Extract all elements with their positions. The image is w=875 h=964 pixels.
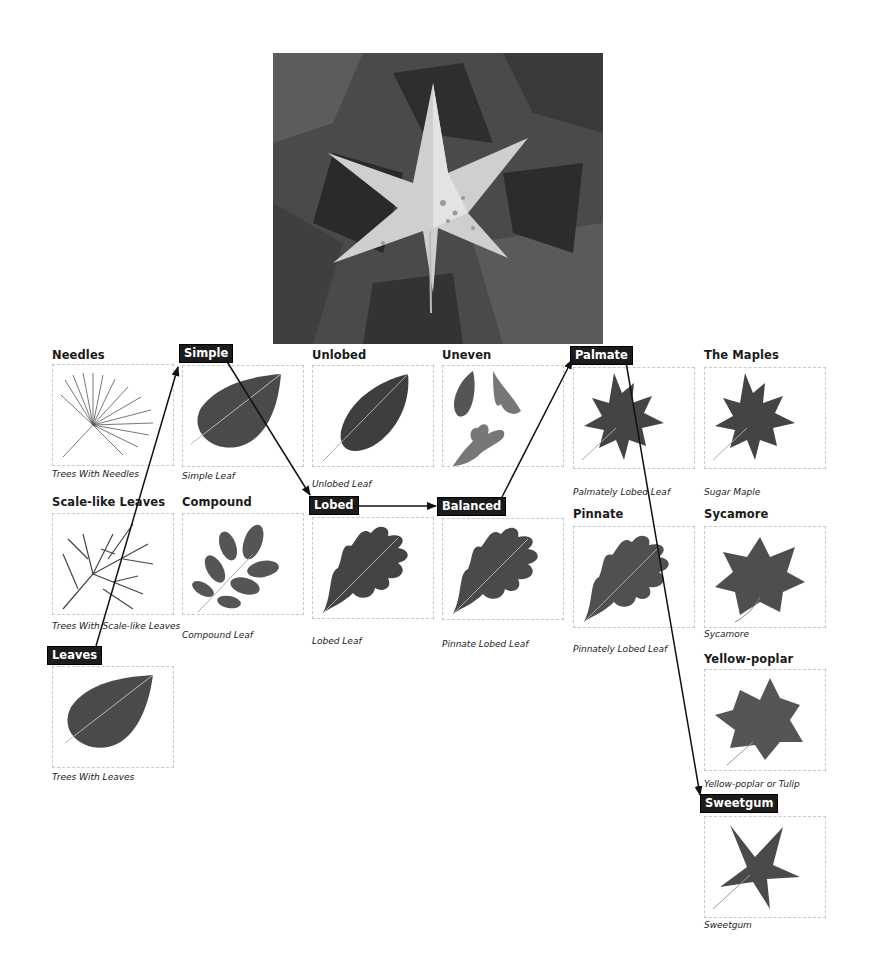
- sassafras-leaves-icon: [443, 366, 563, 466]
- tulip-leaf-icon: [705, 670, 825, 770]
- card-sycamore[interactable]: [704, 526, 826, 628]
- maple-leaf-icon: [574, 368, 694, 468]
- heading-scale-like: Scale-like Leaves: [52, 495, 165, 509]
- card-compound[interactable]: [182, 513, 304, 615]
- caption-scale-like: Trees With Scale-like Leaves: [52, 621, 182, 632]
- card-uneven[interactable]: [442, 365, 564, 467]
- caption-compound: Compound Leaf: [182, 630, 312, 641]
- heading-uneven: Uneven: [442, 348, 491, 362]
- heading-yellow-poplar: Yellow-poplar: [704, 652, 793, 666]
- caption-balanced: Pinnate Lobed Leaf: [442, 639, 572, 650]
- heading-maples: The Maples: [704, 348, 779, 362]
- badge-balanced[interactable]: Balanced: [437, 497, 506, 516]
- simple-leaf-icon: [53, 667, 173, 767]
- caption-needles: Trees With Needles: [52, 469, 182, 480]
- card-simple[interactable]: [182, 365, 304, 467]
- oak-leaf-icon: [574, 527, 694, 627]
- maple-leaf-icon: [705, 368, 825, 468]
- badge-palmate[interactable]: Palmate: [570, 346, 633, 365]
- caption-maples: Sugar Maple: [704, 487, 834, 498]
- card-balanced[interactable]: [442, 518, 564, 620]
- card-maples[interactable]: [704, 367, 826, 469]
- oak-leaf-icon: [313, 518, 433, 618]
- card-yellow-poplar[interactable]: [704, 669, 826, 771]
- badge-simple[interactable]: Simple: [179, 344, 233, 363]
- badge-sweetgum[interactable]: Sweetgum: [700, 794, 778, 813]
- card-scale-like[interactable]: [52, 513, 174, 615]
- caption-lobed: Lobed Leaf: [312, 636, 442, 647]
- card-unlobed[interactable]: [312, 365, 434, 467]
- caption-sycamore: Sycamore: [704, 629, 834, 640]
- sweetgum-leaf-icon: [705, 817, 825, 917]
- unlobed-leaf-icon: [313, 366, 433, 466]
- card-pinnate[interactable]: [573, 526, 695, 628]
- caption-sweetgum: Sweetgum: [704, 920, 834, 931]
- caption-leaves: Trees With Leaves: [52, 772, 182, 783]
- heading-sycamore: Sycamore: [704, 507, 769, 521]
- pine-needles-icon: [53, 365, 173, 465]
- caption-yellow-poplar: Yellow-poplar or Tulip: [704, 779, 834, 790]
- caption-simple: Simple Leaf: [182, 471, 312, 482]
- card-leaves[interactable]: [52, 666, 174, 768]
- badge-lobed[interactable]: Lobed: [309, 496, 359, 515]
- heading-compound: Compound: [182, 495, 252, 509]
- heading-pinnate: Pinnate: [573, 507, 624, 521]
- card-palmate[interactable]: [573, 367, 695, 469]
- compound-leaf-icon: [183, 514, 303, 614]
- caption-pinnate: Pinnately Lobed Leaf: [573, 644, 703, 655]
- badge-leaves[interactable]: Leaves: [47, 646, 102, 665]
- cedar-sprig-icon: [53, 514, 173, 614]
- caption-palmate: Palmately Lobed Leaf: [573, 487, 703, 498]
- card-needles[interactable]: [52, 364, 174, 466]
- card-lobed[interactable]: [312, 517, 434, 619]
- card-sweetgum[interactable]: [704, 816, 826, 918]
- simple-leaf-icon: [183, 366, 303, 466]
- heading-unlobed: Unlobed: [312, 348, 366, 362]
- heading-needles: Needles: [52, 348, 105, 362]
- sycamore-leaf-icon: [705, 527, 825, 627]
- caption-unlobed: Unlobed Leaf: [312, 479, 442, 490]
- oak-leaf-icon: [443, 519, 563, 619]
- sweetgum-photo: [273, 53, 603, 344]
